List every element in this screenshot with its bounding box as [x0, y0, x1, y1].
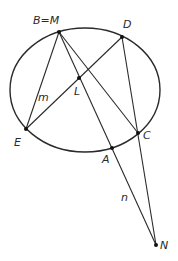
point-d	[120, 35, 124, 39]
point-m	[57, 30, 61, 34]
segment-m-n	[59, 32, 156, 245]
label-e: E	[14, 136, 21, 149]
geometry-diagram: B=M D L E C A N m n	[0, 0, 178, 261]
label-a: A	[101, 153, 110, 166]
point-a	[110, 146, 114, 150]
label-l: L	[74, 85, 80, 98]
line-label-n: n	[121, 191, 128, 204]
point-c	[136, 131, 140, 135]
point-n	[154, 243, 158, 247]
label-n: N	[160, 239, 168, 252]
line-label-m: m	[38, 91, 49, 104]
label-c: C	[143, 129, 151, 142]
label-m: B=M	[33, 14, 60, 27]
label-d: D	[123, 18, 131, 31]
point-e	[24, 127, 28, 131]
point-l	[77, 76, 81, 80]
